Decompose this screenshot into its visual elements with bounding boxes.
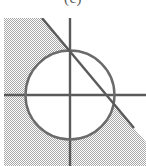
plot-canvas xyxy=(0,0,146,166)
figure-panel: (c) xyxy=(0,0,146,166)
